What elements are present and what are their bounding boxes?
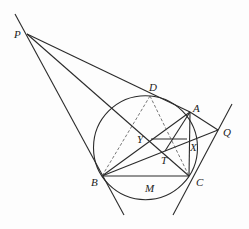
label-T: T — [161, 154, 168, 166]
tangent-line-PB — [15, 14, 124, 215]
label-Y: Y — [137, 133, 145, 145]
line-BA — [102, 112, 190, 176]
label-A: A — [192, 102, 200, 114]
label-P: P — [13, 28, 21, 40]
line-PA — [27, 34, 190, 112]
line-AT — [165, 112, 190, 151]
label-X: X — [189, 141, 198, 153]
label-Q: Q — [223, 126, 231, 138]
label-D: D — [148, 81, 157, 93]
dashed-line-DC — [150, 96, 189, 176]
label-M: M — [144, 182, 155, 194]
label-C: C — [196, 176, 204, 188]
line-AQ — [190, 112, 218, 130]
line-BQ — [102, 130, 218, 176]
geometry-figure: P D A Q Y T X B C M — [0, 0, 249, 229]
diagram-canvas: P D A Q Y T X B C M — [0, 0, 249, 229]
label-B: B — [91, 176, 98, 188]
